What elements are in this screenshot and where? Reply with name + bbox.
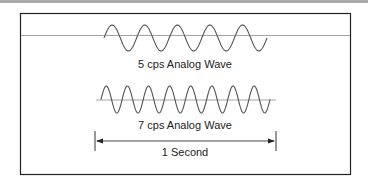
label-5cps: 5 cps Analog Wave bbox=[138, 58, 232, 70]
arrowhead-right bbox=[268, 139, 275, 144]
label-7cps: 7 cps Analog Wave bbox=[138, 119, 232, 131]
wave-5cps bbox=[104, 25, 267, 51]
arrowhead-left bbox=[96, 139, 103, 144]
wave-7cps bbox=[101, 86, 270, 113]
label-1-second: 1 Second bbox=[162, 146, 208, 158]
